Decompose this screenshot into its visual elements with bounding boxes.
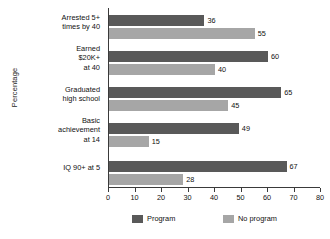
category-label-line1: Basic (58, 116, 100, 125)
x-axis-tick-label: 10 (130, 193, 138, 202)
plot-area: 36 55 60 40 65 45 49 15 67 (108, 8, 320, 188)
legend-label-no-program: No program (238, 214, 277, 223)
category-label-line1: Arrested 5+ (62, 13, 100, 22)
bar-no-program (109, 100, 228, 111)
legend-item-no-program: No program (223, 214, 277, 223)
category-label-line3: at 40 (76, 63, 100, 72)
x-axis-tick (241, 188, 242, 192)
category-label-line1: Earned (76, 44, 100, 53)
bar-no-program (109, 136, 149, 147)
bar-value-no-program: 55 (255, 28, 266, 39)
x-axis-tick (320, 188, 321, 192)
bar-value-program: 36 (204, 15, 215, 26)
x-axis-tick-label: 20 (157, 193, 165, 202)
category-label-line1: IQ 90+ at 5 (63, 163, 100, 172)
legend-item-program: Program (132, 214, 175, 223)
bar-program (109, 51, 268, 62)
x-axis: 01020304050607080 (108, 188, 320, 206)
category-label-column: Arrested 5+ times by 40 Earned $20K+ at … (0, 8, 104, 188)
legend-swatch-program (132, 215, 143, 223)
legend-swatch-no-program (223, 215, 234, 223)
bar-no-program (109, 174, 183, 185)
bar-value-program: 67 (287, 161, 298, 172)
bar-value-program: 60 (268, 51, 279, 62)
x-axis-tick (267, 188, 268, 192)
category-label-iq: IQ 90+ at 5 (0, 154, 104, 182)
bar-no-program (109, 28, 255, 39)
bar-group-basic-achievement: 49 15 (109, 122, 320, 150)
category-label-basic-achievement: Basic achievement at 14 (0, 116, 104, 144)
bar-program (109, 161, 287, 172)
category-label-line2: $20K+ (76, 53, 100, 62)
bar-group-iq: 67 28 (109, 160, 320, 188)
bar-group-arrested: 36 55 (109, 14, 320, 42)
x-axis-tick (108, 188, 109, 192)
category-label-line2: high school (63, 94, 100, 103)
category-label-line2: achievement (58, 125, 100, 134)
category-label-line2: times by 40 (62, 22, 100, 31)
x-axis-tick (135, 188, 136, 192)
bar-chart: Percentage Arrested 5+ times by 40 Earne… (0, 0, 330, 239)
bar-value-program: 49 (239, 123, 250, 134)
legend-label-program: Program (147, 214, 175, 223)
bar-group-graduated: 65 45 (109, 86, 320, 114)
x-axis-tick (188, 188, 189, 192)
x-axis-tick (214, 188, 215, 192)
x-axis-tick-label: 50 (236, 193, 244, 202)
bar-value-no-program: 40 (215, 64, 226, 75)
x-axis-tick-label: 70 (289, 193, 297, 202)
x-axis-tick (294, 188, 295, 192)
category-label-line1: Graduated (63, 85, 100, 94)
category-label-line3: at 14 (58, 135, 100, 144)
bar-value-no-program: 15 (149, 136, 160, 147)
legend: Program No program (108, 214, 320, 230)
bar-no-program (109, 64, 215, 75)
category-label-arrested: Arrested 5+ times by 40 (0, 8, 104, 36)
category-label-graduated: Graduated high school (0, 80, 104, 108)
x-axis-tick-label: 40 (210, 193, 218, 202)
bar-program (109, 87, 281, 98)
bar-group-earned: 60 40 (109, 50, 320, 78)
x-axis-tick-label: 60 (263, 193, 271, 202)
bar-program (109, 123, 239, 134)
category-label-earned: Earned $20K+ at 40 (0, 44, 104, 72)
bar-value-program: 65 (281, 87, 292, 98)
bar-value-no-program: 45 (228, 100, 239, 111)
bar-program (109, 15, 204, 26)
x-axis-tick-label: 0 (106, 193, 110, 202)
bar-value-no-program: 28 (183, 174, 194, 185)
x-axis-tick (161, 188, 162, 192)
x-axis-tick-label: 30 (183, 193, 191, 202)
x-axis-tick-label: 80 (316, 193, 324, 202)
